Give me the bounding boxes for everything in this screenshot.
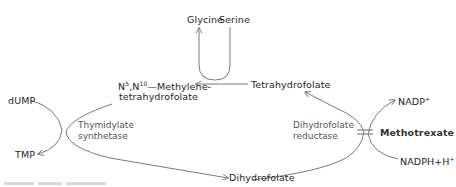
cropped-caption	[0, 180, 456, 187]
caption-fragment	[66, 182, 106, 185]
dihydrofolate-reductase-line1: Dihydrofolate	[293, 120, 354, 131]
caption-fragment	[4, 182, 34, 185]
glycine-label: Glycine	[187, 14, 223, 25]
nadph-text: NADPH+H	[400, 156, 450, 167]
serine-glycine-loop	[199, 27, 230, 80]
dihydrofolate-reductase-line2: reductase	[293, 131, 338, 142]
methotrexate-label: Methotrexate	[380, 127, 454, 138]
nadph-label: NADPH+H+	[400, 153, 455, 167]
tmp-label: TMP	[15, 149, 35, 160]
nadp-label: NADP+	[398, 93, 430, 107]
plus-superscript: +	[425, 95, 430, 102]
pathway-lines	[0, 0, 456, 187]
caption-fragment	[38, 182, 62, 185]
thymidylate-synthetase-line1: Thymidylate	[78, 120, 134, 131]
nadp-text: NADP	[398, 96, 425, 107]
dump-label: dUMP	[8, 95, 35, 106]
methylene-thf-label-line2: tetrahydrofolate	[119, 91, 198, 102]
dump-tmp-curve	[30, 100, 62, 154]
plus-superscript: +	[450, 155, 455, 162]
serine-label: Serine	[219, 14, 250, 25]
methylene-thf-label-line1: N5,N10—Methylene-	[118, 78, 211, 92]
tetrahydrofolate-label: Tetrahydrofolate	[251, 79, 330, 90]
thymidylate-synthetase-line2: synthetase	[78, 131, 128, 142]
